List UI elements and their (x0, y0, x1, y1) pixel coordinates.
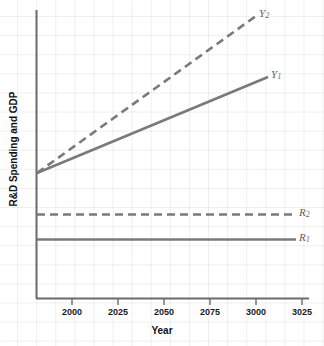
series-label-Y2: Y2 (259, 8, 269, 20)
x-tick-label-2075: 2075 (190, 308, 230, 317)
series-label-Y1: Y1 (271, 69, 281, 81)
series-label-Y1-sub: 1 (277, 72, 281, 81)
series-label-R1-sub: 1 (306, 235, 310, 244)
series-label-R2-sub: 2 (306, 210, 310, 219)
x-tick-label-2025: 2025 (98, 308, 138, 317)
x-tick-label-3025: 3025 (282, 308, 322, 317)
x-tick-label-3000: 3000 (236, 308, 276, 317)
series-label-R2-text: R (299, 206, 306, 218)
x-axis-title: Year (0, 326, 324, 336)
x-tick-label-2000: 2000 (52, 308, 92, 317)
y-axis-title: R&D Spending and GDP (9, 84, 19, 214)
series-label-R2: R2 (299, 207, 310, 219)
series-label-R1-text: R (299, 231, 306, 243)
series-label-Y2-sub: 2 (265, 11, 269, 20)
series-line-Y1 (37, 77, 268, 173)
series-label-R1: R1 (299, 232, 310, 244)
x-tick-label-2050: 2050 (144, 308, 184, 317)
line-chart-plot (0, 0, 324, 346)
